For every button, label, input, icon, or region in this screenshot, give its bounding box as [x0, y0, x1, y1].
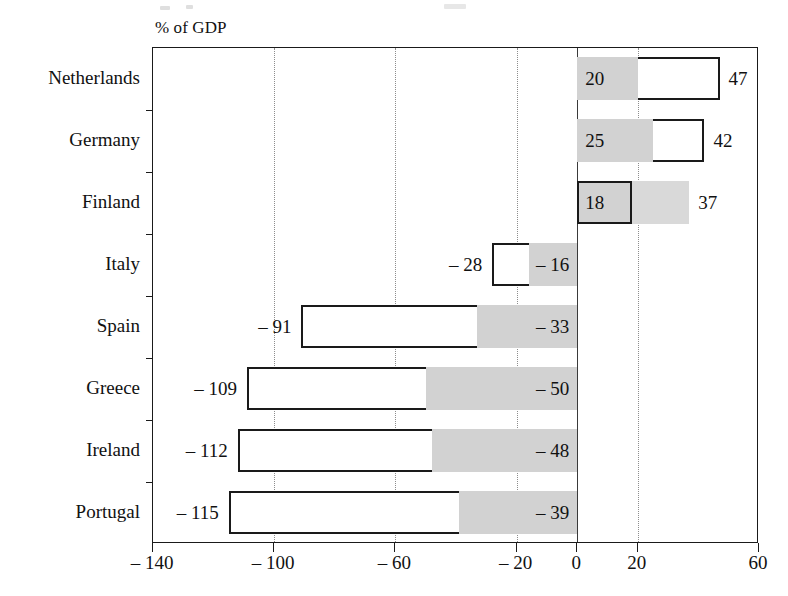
- x-axis-tick-label: 60: [749, 552, 768, 574]
- category-label-germany: Germany: [0, 109, 140, 171]
- y-axis-tick: [146, 482, 153, 483]
- bar-total-value-label: 37: [698, 181, 717, 224]
- bar-shaded-value-label: – 33: [483, 305, 569, 348]
- axis-title: % of GDP: [155, 18, 227, 38]
- category-label-finland: Finland: [0, 171, 140, 233]
- x-axis-tick: [152, 543, 153, 552]
- category-label-portugal: Portugal: [0, 481, 140, 543]
- category-label-greece: Greece: [0, 357, 140, 419]
- x-axis-tick: [273, 543, 274, 552]
- scan-artifact: [160, 6, 170, 10]
- x-axis-tick-label: 20: [627, 552, 646, 574]
- bar-shaded-value-label: – 39: [465, 491, 569, 534]
- bar-shaded-value-label: – 16: [535, 243, 569, 286]
- scan-artifact: [444, 4, 466, 9]
- category-label-spain: Spain: [0, 295, 140, 357]
- y-axis-tick: [146, 358, 153, 359]
- bar-total-value-label: – 28: [153, 243, 482, 286]
- bar-shaded-value-label: – 50: [432, 367, 570, 410]
- figure-canvas: % of GDP 204725421837– 16– 28– 33– 91– 5…: [0, 0, 788, 596]
- bar-total-value-label: 42: [713, 119, 732, 162]
- chart-row: – 33– 91: [153, 296, 757, 358]
- chart-row: – 48– 112: [153, 420, 757, 482]
- bar-total-value-label: – 91: [153, 305, 291, 348]
- y-axis-tick: [146, 172, 153, 173]
- x-axis-tick: [394, 543, 395, 552]
- y-axis-tick: [146, 296, 153, 297]
- y-axis-tick: [146, 420, 153, 421]
- bar-total-value-label: – 109: [153, 367, 237, 410]
- chart-row: 2542: [153, 110, 757, 172]
- bar-shaded-value-label: 18: [585, 181, 604, 224]
- category-label-netherlands: Netherlands: [0, 47, 140, 109]
- y-axis-tick: [146, 110, 153, 111]
- x-axis-tick-label: – 20: [499, 552, 532, 574]
- chart-row: 2047: [153, 48, 757, 110]
- bar-total-value-label: 47: [729, 57, 748, 100]
- chart-row: – 39– 115: [153, 482, 757, 544]
- chart-row: – 16– 28: [153, 234, 757, 296]
- plot-area: 204725421837– 16– 28– 33– 91– 50– 109– 4…: [152, 47, 758, 543]
- category-label-ireland: Ireland: [0, 419, 140, 481]
- x-axis-tick-label: – 140: [131, 552, 174, 574]
- x-axis-tick-label: – 100: [252, 552, 295, 574]
- bar-shaded-value-label: – 48: [438, 429, 569, 472]
- x-axis-tick: [516, 543, 517, 552]
- bar-shaded-value-label: 25: [585, 119, 604, 162]
- x-axis-tick: [637, 543, 638, 552]
- y-axis-tick: [146, 234, 153, 235]
- chart-row: 1837: [153, 172, 757, 234]
- bar-total-value-label: – 112: [153, 429, 228, 472]
- bar-shaded-value-label: 20: [585, 57, 604, 100]
- x-axis-tick-label: – 60: [378, 552, 411, 574]
- x-axis-tick-label: 0: [571, 552, 581, 574]
- x-axis-tick: [758, 543, 759, 552]
- bar-total-value-label: – 115: [153, 491, 219, 534]
- category-label-italy: Italy: [0, 233, 140, 295]
- chart-row: – 50– 109: [153, 358, 757, 420]
- scan-artifact: [186, 5, 193, 9]
- x-axis-tick: [576, 543, 577, 552]
